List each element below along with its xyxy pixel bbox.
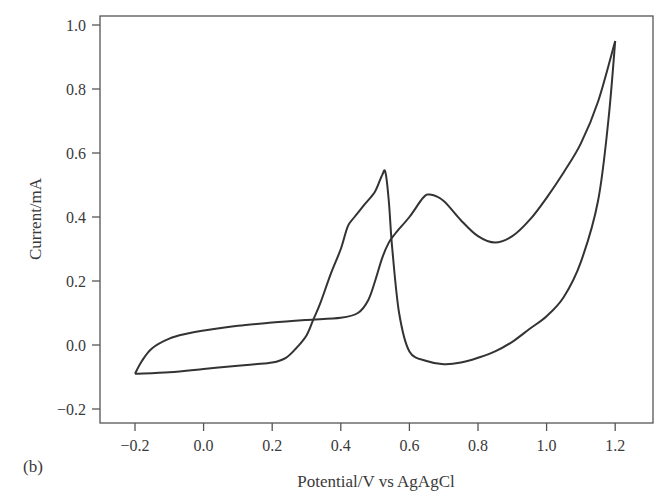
y-tick-label: 0.4 [66,209,86,226]
x-tick-label: 1.0 [537,437,557,454]
x-tick-label: 0.6 [399,437,419,454]
y-tick-label: −0.2 [57,401,86,418]
y-axis-title: Current/mA [26,177,45,260]
y-tick-label: 1.0 [66,17,86,34]
panel-label: (b) [23,457,43,477]
forward-sweep-curve [135,41,615,374]
x-tick-label: 0.2 [262,437,282,454]
reverse-sweep-curve [135,41,615,374]
y-tick-label: 0.8 [66,81,86,98]
x-axis-ticks: −0.20.00.20.40.60.81.01.2 [120,423,625,454]
x-tick-label: 0.4 [331,437,351,454]
x-axis-title: Potential/V vs AgAgCl [297,472,455,491]
x-tick-label: 1.2 [605,437,625,454]
y-tick-label: 0.6 [66,145,86,162]
x-tick-label: −0.2 [120,437,149,454]
cyclic-voltammogram-chart: −0.20.00.20.40.60.81.0 −0.20.00.20.40.60… [0,0,665,496]
y-axis-ticks: −0.20.00.20.40.60.81.0 [57,17,100,418]
plot-frame [100,16,653,423]
y-tick-label: 0.2 [66,273,86,290]
x-tick-label: 0.8 [468,437,488,454]
y-tick-label: 0.0 [66,337,86,354]
x-tick-label: 0.0 [194,437,214,454]
cv-curves [135,41,615,374]
